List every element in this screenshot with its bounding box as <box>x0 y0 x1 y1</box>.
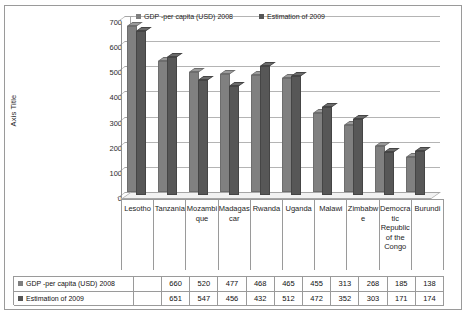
bar-front-face <box>167 57 177 195</box>
legend-item-series-1: GDP -per capita (USD) 2008 <box>136 13 233 20</box>
bar <box>229 86 239 195</box>
table-cell: 171 <box>388 292 416 306</box>
bar <box>384 152 394 195</box>
category-label: Uganda <box>283 200 315 270</box>
table-cell: 138 <box>416 277 444 291</box>
bar-front-face <box>353 119 363 195</box>
square-marker-icon <box>136 14 141 19</box>
table-cell: 313 <box>331 277 359 291</box>
bar-group <box>214 16 245 198</box>
bar-front-face <box>384 152 394 195</box>
category-label: Democratic Republic of the Congo <box>380 200 412 270</box>
bar-group <box>152 16 183 198</box>
bar-group <box>400 16 431 198</box>
bar <box>198 80 208 195</box>
square-marker-icon <box>18 296 23 301</box>
bar-group <box>121 16 152 198</box>
bar <box>136 31 146 195</box>
table-cell: 468 <box>247 277 275 291</box>
category-label: Lesotho <box>122 200 154 270</box>
bar-group <box>276 16 307 198</box>
table-cell: 432 <box>247 292 275 306</box>
table-row-label: GDP -per capita (USD) 2008 <box>14 277 134 291</box>
table-row-label: Estimation of 2009 <box>14 292 134 306</box>
table-row-label-text: Estimation of 2009 <box>26 295 84 302</box>
square-marker-icon <box>18 281 23 286</box>
bar <box>167 57 177 195</box>
legend-label-series-1: GDP -per capita (USD) 2008 <box>144 13 233 20</box>
table-cell: 547 <box>190 292 218 306</box>
category-labels-row: LesothoTanzaniaMozambiqueMadagascarRwand… <box>121 199 444 270</box>
table-row: Estimation of 20096515474564325124723523… <box>14 292 444 307</box>
bar-front-face <box>291 76 301 195</box>
table-row: GDP -per capita (USD) 200866052047746846… <box>14 277 444 292</box>
bar-front-face <box>229 86 239 195</box>
category-label: Madagascar <box>219 200 251 270</box>
bar-group <box>307 16 338 198</box>
bar <box>291 76 301 195</box>
category-label: Burundi <box>412 200 444 270</box>
category-label: Rwanda <box>251 200 283 270</box>
square-marker-icon <box>259 14 264 19</box>
bar-group <box>183 16 214 198</box>
chart-data-table: GDP -per capita (USD) 200866052047746846… <box>13 276 444 305</box>
table-cell: 185 <box>388 277 416 291</box>
table-spacer-cell <box>134 292 162 306</box>
bar-front-face <box>415 151 425 195</box>
plot-area: 0100200300400500600700 <box>96 16 444 212</box>
bar-front-face <box>198 80 208 195</box>
bar-front-face <box>136 31 146 195</box>
table-cell: 352 <box>331 292 359 306</box>
table-cell: 660 <box>162 277 190 291</box>
chart-screenshot: Axis Title GDP -per capita (USD) 2008 Es… <box>0 0 470 316</box>
table-spacer-cell <box>134 277 162 291</box>
table-row-label-text: GDP -per capita (USD) 2008 <box>26 280 115 287</box>
chart-legend: GDP -per capita (USD) 2008 Estimation of… <box>136 13 325 20</box>
category-label: Tanzania <box>154 200 186 270</box>
bar <box>353 119 363 195</box>
table-cell: 465 <box>275 277 303 291</box>
bar <box>260 66 270 195</box>
table-cell: 456 <box>218 292 246 306</box>
y-axis-title: Axis Title <box>9 81 18 141</box>
table-cell: 268 <box>359 277 387 291</box>
table-cell: 455 <box>303 277 331 291</box>
category-label: Mozambique <box>186 200 218 270</box>
bar-series-container <box>121 16 431 198</box>
bar <box>322 107 332 196</box>
bar <box>415 151 425 195</box>
bar-group <box>338 16 369 198</box>
table-cell: 512 <box>275 292 303 306</box>
table-cell: 472 <box>303 292 331 306</box>
category-label: Zimbabwe <box>347 200 379 270</box>
legend-item-series-2: Estimation of 2009 <box>259 13 325 20</box>
y-axis-tick-labels: 0100200300400500600700 <box>96 16 122 196</box>
table-cell: 477 <box>218 277 246 291</box>
table-cell: 651 <box>162 292 190 306</box>
legend-label-series-2: Estimation of 2009 <box>267 13 325 20</box>
bar-group <box>369 16 400 198</box>
table-cell: 303 <box>359 292 387 306</box>
bar-front-face <box>322 107 332 196</box>
table-cell: 174 <box>416 292 444 306</box>
category-label: Malawi <box>315 200 347 270</box>
bar-group <box>245 16 276 198</box>
bar-front-face <box>260 66 270 195</box>
table-cell: 520 <box>190 277 218 291</box>
